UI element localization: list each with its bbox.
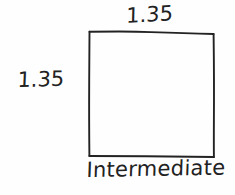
square-edge-top — [90, 31, 214, 34]
figure-caption: Intermediate — [86, 158, 226, 181]
top-side-length-label: 1.35 — [126, 3, 173, 27]
left-side-length-label: 1.35 — [17, 69, 65, 91]
sketch-canvas: 1.35 1.35 Intermediate — [0, 0, 235, 195]
